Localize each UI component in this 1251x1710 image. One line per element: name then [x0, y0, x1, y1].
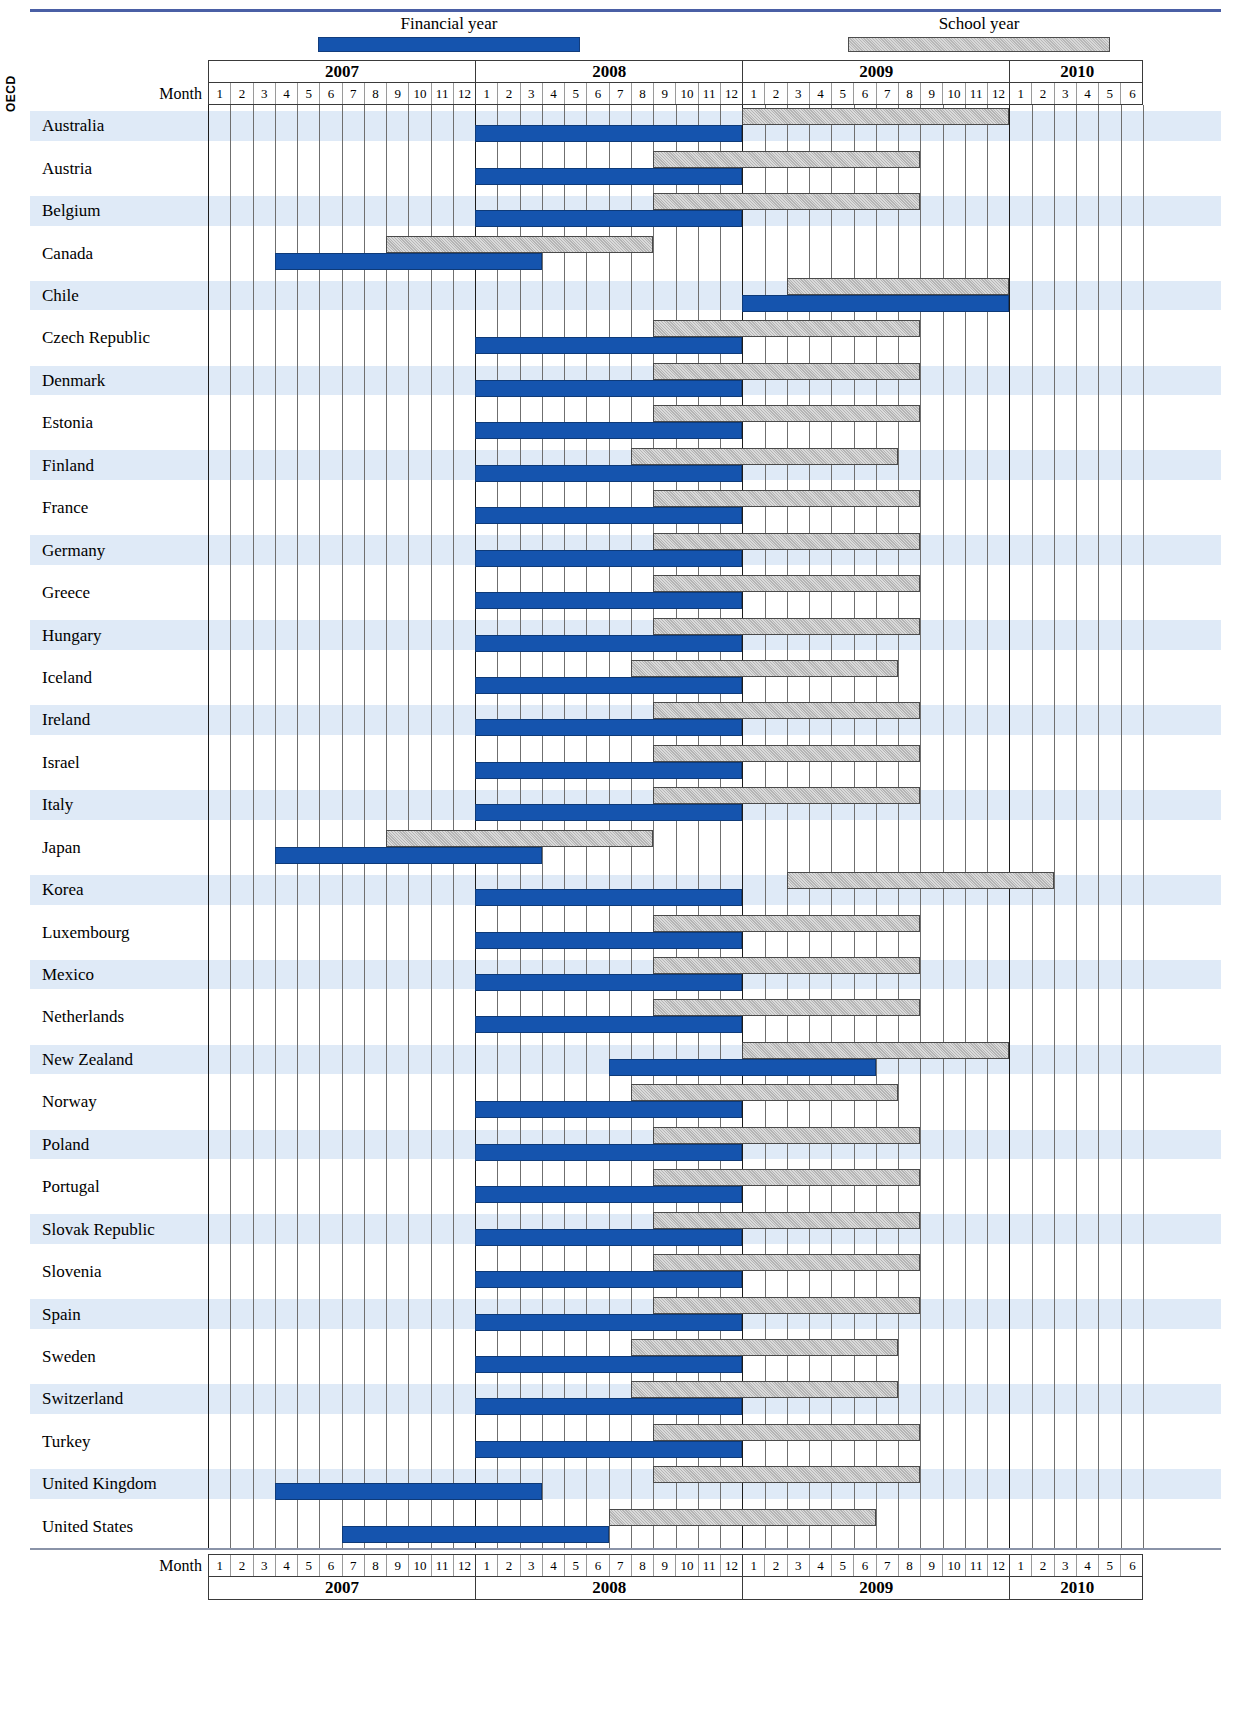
school-year-bar: [631, 660, 898, 677]
month-cell-25: 1: [743, 83, 765, 104]
country-label-chile: Chile: [42, 287, 79, 305]
year-footer-row: 2007200820092010: [208, 1577, 1143, 1600]
month-cell-16: 4: [543, 1555, 565, 1576]
month-cell-37: 1: [1010, 1555, 1032, 1576]
month-cell-31: 7: [877, 1555, 899, 1576]
month-cell-40: 4: [1077, 1555, 1099, 1576]
legend-financial-label: Financial year: [318, 14, 580, 34]
month-cell-36: 12: [988, 1555, 1010, 1576]
month-cell-41: 5: [1099, 1555, 1121, 1576]
year-header-row: 2007200820092010: [208, 60, 1143, 83]
gridline-month: [342, 105, 343, 1548]
month-cell-24: 12: [721, 1555, 743, 1576]
school-year-bar: [386, 236, 653, 253]
financial-year-bar: [475, 1356, 742, 1373]
gridline-month: [1143, 105, 1144, 1548]
financial-year-bar: [609, 1059, 876, 1076]
financial-year-bar: [475, 889, 742, 906]
school-year-bar: [653, 999, 920, 1016]
school-year-bar: [653, 702, 920, 719]
country-label-greece: Greece: [42, 584, 90, 602]
country-label-poland: Poland: [42, 1136, 89, 1154]
school-year-bar: [653, 575, 920, 592]
country-label-japan: Japan: [42, 839, 81, 857]
month-cell-27: 3: [788, 83, 810, 104]
country-label-israel: Israel: [42, 754, 80, 772]
month-cell-11: 11: [432, 1555, 454, 1576]
gridline-month: [297, 105, 298, 1548]
financial-year-bar: [475, 1186, 742, 1203]
legend-school-year: School year: [848, 14, 1110, 52]
year-cell-2010: 2010: [1010, 1577, 1144, 1599]
month-cell-10: 10: [409, 83, 431, 104]
month-cell-1: 1: [209, 1555, 231, 1576]
financial-year-bar: [475, 422, 742, 439]
month-cell-5: 5: [298, 83, 320, 104]
country-label-iceland: Iceland: [42, 669, 92, 687]
gridline-month: [431, 105, 432, 1548]
month-cell-42: 6: [1121, 1555, 1143, 1576]
month-cell-10: 10: [409, 1555, 431, 1576]
month-cell-29: 5: [832, 1555, 854, 1576]
school-year-bar: [653, 957, 920, 974]
month-footer-row: 1234567891011121234567891011121234567891…: [208, 1554, 1143, 1577]
month-cell-6: 6: [320, 83, 342, 104]
financial-year-bar: [475, 465, 742, 482]
country-label-new-zealand: New Zealand: [42, 1051, 133, 1069]
month-cell-34: 10: [943, 83, 965, 104]
month-cell-33: 9: [921, 83, 943, 104]
month-cell-42: 6: [1121, 83, 1143, 104]
year-cell-2007: 2007: [209, 61, 476, 83]
school-year-bar: [609, 1509, 876, 1526]
country-label-luxembourg: Luxembourg: [42, 924, 130, 942]
month-cell-3: 3: [254, 83, 276, 104]
month-cell-3: 3: [254, 1555, 276, 1576]
financial-year-bar: [275, 253, 542, 270]
gridline-month: [408, 105, 409, 1548]
month-cell-9: 9: [387, 1555, 409, 1576]
school-year-bar: [631, 1084, 898, 1101]
gridline-month: [386, 105, 387, 1548]
country-label-united-states: United States: [42, 1518, 133, 1536]
school-year-bar: [653, 490, 920, 507]
month-cell-11: 11: [432, 83, 454, 104]
school-year-bar: [653, 1254, 920, 1271]
country-label-ireland: Ireland: [42, 711, 90, 729]
month-cell-22: 10: [676, 83, 698, 104]
country-label-belgium: Belgium: [42, 202, 101, 220]
chart-page: Financial year School year OECD 20072008…: [0, 0, 1251, 1710]
month-cell-18: 6: [587, 1555, 609, 1576]
month-header-row: 1234567891011121234567891011121234567891…: [208, 82, 1143, 105]
month-header-label: Month: [132, 83, 202, 104]
legend-school-label: School year: [848, 14, 1110, 34]
school-year-bar: [386, 830, 653, 847]
month-cell-29: 5: [832, 83, 854, 104]
month-cell-38: 2: [1032, 1555, 1054, 1576]
gridline-month: [1032, 105, 1033, 1548]
year-cell-2007: 2007: [209, 1577, 476, 1599]
school-year-bar: [653, 320, 920, 337]
financial-year-bar: [475, 974, 742, 991]
year-cell-2009: 2009: [743, 1577, 1010, 1599]
month-cell-36: 12: [988, 83, 1010, 104]
gridline-month: [542, 105, 543, 1548]
gridline-month: [943, 105, 944, 1548]
country-label-turkey: Turkey: [42, 1433, 91, 1451]
legend-financial-year: Financial year: [318, 14, 580, 52]
month-cell-4: 4: [276, 83, 298, 104]
school-year-bar: [653, 193, 920, 210]
financial-year-bar: [475, 1398, 742, 1415]
financial-year-bar: [475, 550, 742, 567]
month-cell-17: 5: [565, 1555, 587, 1576]
gridline-month: [230, 105, 231, 1548]
school-year-bar: [653, 915, 920, 932]
month-cell-7: 7: [343, 83, 365, 104]
gridline-month: [497, 105, 498, 1548]
financial-year-bar: [475, 1271, 742, 1288]
gridline-month: [453, 105, 454, 1548]
month-cell-17: 5: [565, 83, 587, 104]
month-cell-35: 11: [966, 1555, 988, 1576]
month-cell-35: 11: [966, 83, 988, 104]
financial-year-bar: [475, 1229, 742, 1246]
gridline-month: [609, 105, 610, 1548]
